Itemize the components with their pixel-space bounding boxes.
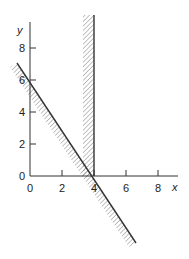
y-tick-label: 0 (19, 170, 25, 182)
x-tick-label: 0 (27, 182, 33, 194)
x-tick-label: 2 (59, 182, 65, 194)
x-tick-label: 6 (123, 182, 129, 194)
y-tick-label: 2 (19, 138, 25, 150)
chart-canvas: 0 2 4 6 8 0 2 4 6 8 y x (0, 0, 189, 259)
y-tick-label: 6 (19, 74, 25, 86)
sloped-boundary-line (17, 63, 136, 243)
hatch-region-sloped (10, 63, 136, 247)
y-tick-label: 8 (19, 42, 25, 54)
x-tick-label: 4 (91, 182, 97, 194)
x-axis-label: x (171, 181, 178, 193)
x-tick-label: 8 (155, 182, 161, 194)
x-ticks (62, 170, 158, 176)
y-axis-label: y (16, 24, 24, 36)
y-tick-label: 4 (19, 106, 25, 118)
hatch-region-vertical (83, 15, 94, 176)
